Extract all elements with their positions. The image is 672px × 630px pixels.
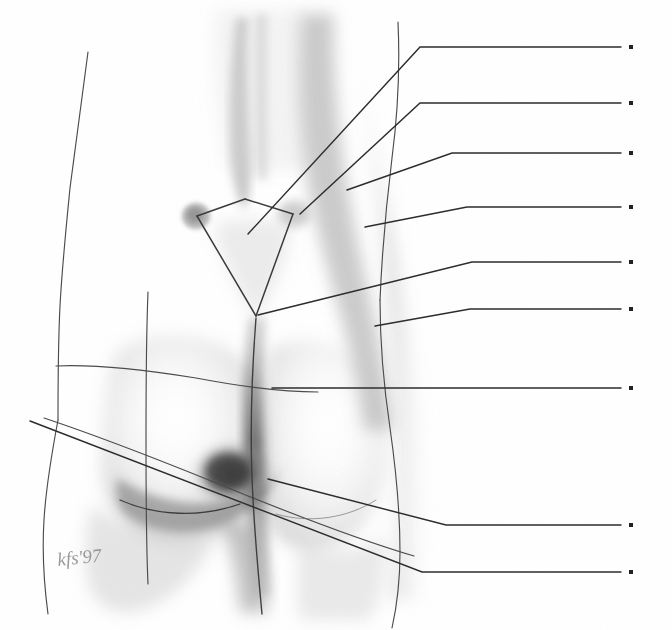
anatomy-figure-root: kfs'97 (0, 0, 672, 630)
anatomy-drawing-svg: kfs'97 (0, 0, 672, 630)
paper-grain-overlay (0, 0, 672, 630)
